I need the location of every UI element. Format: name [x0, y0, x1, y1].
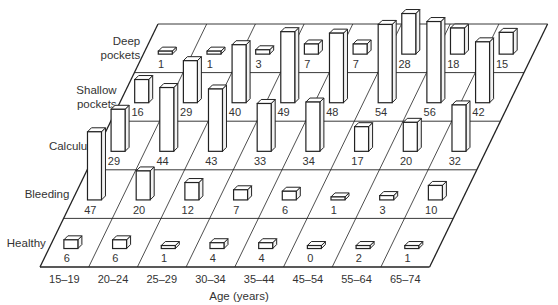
bar	[208, 85, 226, 151]
bar-value-label: 32	[449, 155, 461, 167]
bar	[64, 236, 82, 249]
bar-value-label: 1	[331, 204, 337, 216]
bar-value-label: 34	[303, 155, 315, 167]
bar-value-label: 4	[258, 252, 264, 264]
x-tick-label: 35–44	[244, 273, 275, 285]
bar-value-label: 28	[398, 58, 410, 70]
bar-value-label: 20	[400, 155, 412, 167]
bar	[87, 128, 105, 200]
bar	[257, 99, 275, 151]
bar	[232, 41, 250, 103]
bar	[307, 242, 325, 249]
bar	[304, 40, 322, 54]
x-axis-title: Age (years)	[209, 290, 269, 302]
bar	[185, 179, 203, 200]
bar	[356, 242, 374, 249]
bar	[113, 236, 131, 249]
bar	[402, 10, 420, 55]
bar-value-label: 1	[161, 252, 167, 264]
row-label-bleeding: Bleeding	[25, 188, 70, 200]
bar	[378, 20, 396, 102]
bar-value-label: 7	[353, 58, 359, 70]
bar	[427, 18, 445, 103]
bar-value-label: 29	[180, 106, 192, 118]
bar-value-label: 6	[112, 252, 118, 264]
bar	[136, 167, 154, 200]
bar	[256, 46, 274, 54]
x-tick-label: 45–54	[293, 273, 324, 285]
bar	[259, 239, 277, 249]
bar	[183, 57, 201, 103]
bar-value-label: 1	[207, 58, 213, 70]
bar-value-label: 29	[108, 155, 120, 167]
bar-value-label: 16	[131, 106, 143, 118]
bar	[428, 181, 446, 200]
bar	[405, 242, 423, 249]
x-tick-label: 15–19	[49, 273, 80, 285]
bar	[331, 193, 349, 200]
bar	[234, 186, 252, 200]
bar-value-label: 6	[64, 252, 70, 264]
bar-value-label: 2	[356, 252, 362, 264]
bar-value-label: 42	[472, 106, 484, 118]
x-tick-label: 55–64	[341, 273, 372, 285]
bar-value-label: 4	[210, 252, 216, 264]
bar	[306, 98, 324, 151]
bar	[452, 101, 470, 151]
bar	[403, 118, 421, 151]
bar-value-label: 17	[351, 155, 363, 167]
bar-value-label: 12	[182, 204, 194, 216]
bar	[160, 84, 178, 152]
x-tick-label: 20–24	[98, 273, 129, 285]
x-tick-label: 30–34	[195, 273, 226, 285]
x-axis-tick-labels: 15–1920–2425–2930–3435–4445–5455–6465–74	[49, 273, 420, 285]
bar	[476, 38, 494, 103]
bar-value-label: 40	[229, 106, 241, 118]
bar	[353, 40, 371, 54]
bar-value-label: 20	[133, 204, 145, 216]
row-label-healthy: Healthy	[7, 237, 46, 249]
x-tick-label: 65–74	[390, 273, 421, 285]
bar-value-label: 43	[205, 155, 217, 167]
bar-value-label: 1	[158, 58, 164, 70]
bar-value-label: 48	[326, 106, 338, 118]
bar-value-label: 1	[405, 252, 411, 264]
bar	[499, 28, 517, 54]
bar-value-label: 54	[375, 106, 387, 118]
x-tick-label: 25–29	[146, 273, 177, 285]
bar	[355, 123, 373, 152]
bar-value-label: 47	[84, 204, 96, 216]
bar	[380, 192, 398, 200]
bar	[207, 47, 225, 54]
bar-value-label: 7	[233, 204, 239, 216]
row-label-calculus: Calculus	[49, 140, 93, 152]
bar	[111, 105, 129, 151]
bar-value-label: 15	[496, 58, 508, 70]
bar	[161, 242, 179, 249]
bar-value-label: 3	[255, 58, 261, 70]
bar-value-label: 0	[307, 252, 313, 264]
bar-value-label: 56	[424, 106, 436, 118]
periodontal-3d-bar-chart: DeeppocketsShallowpocketsCalculusBleedin…	[0, 0, 558, 305]
bar-value-label: 49	[277, 106, 289, 118]
bar	[282, 187, 300, 200]
bar	[450, 24, 468, 54]
bar-value-label: 44	[156, 155, 168, 167]
bar-value-label: 6	[282, 204, 288, 216]
bar-value-label: 7	[304, 58, 310, 70]
bar-value-label: 33	[254, 155, 266, 167]
row-label-shallow-pockets: Shallowpockets	[76, 84, 117, 110]
bar	[135, 76, 153, 103]
bar	[158, 47, 176, 54]
bar-value-label: 3	[379, 204, 385, 216]
bar	[281, 28, 299, 103]
bar-value-label: 18	[447, 58, 459, 70]
bar	[329, 29, 347, 103]
row-label-deep-pockets: Deeppockets	[101, 35, 141, 61]
bar	[210, 239, 228, 249]
bar-value-label: 10	[425, 204, 437, 216]
